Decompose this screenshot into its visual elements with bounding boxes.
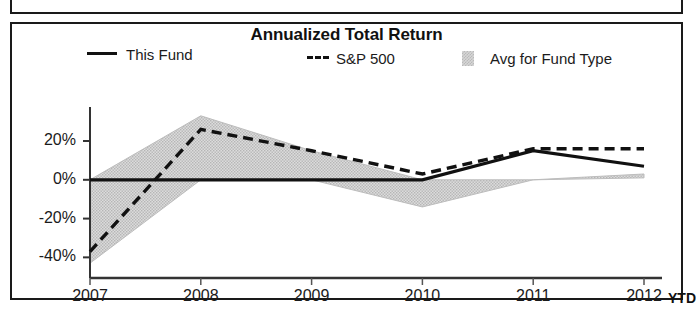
y-tick-label: 0% bbox=[14, 170, 76, 188]
plot-area bbox=[12, 24, 685, 302]
y-tick-label: 20% bbox=[14, 131, 76, 149]
x-tick-label: 2011 bbox=[503, 287, 563, 305]
avg-for-fund-type-band bbox=[90, 116, 644, 263]
x-axis-ytd-label: YTD bbox=[668, 290, 696, 306]
y-tick-label: -20% bbox=[14, 209, 76, 227]
x-tick-label: 2007 bbox=[60, 287, 120, 305]
x-tick-label: 2010 bbox=[392, 287, 452, 305]
x-tick-label: 2008 bbox=[171, 287, 231, 305]
page-frame-fragment bbox=[10, 0, 683, 14]
y-tick-label: -40% bbox=[14, 247, 76, 265]
x-tick-label: 2012 bbox=[614, 287, 674, 305]
annualized-total-return-chart-panel: Annualized Total Return This Fund S&P 50… bbox=[10, 22, 683, 300]
x-tick-label: 2009 bbox=[282, 287, 342, 305]
